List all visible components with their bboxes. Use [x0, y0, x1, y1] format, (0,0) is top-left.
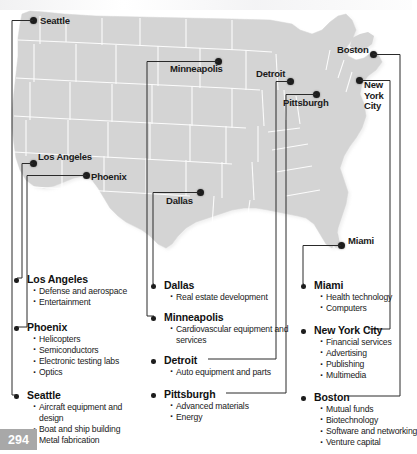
city-dot-dallas[interactable] — [197, 189, 204, 196]
city-label-seattle: Seattle — [40, 16, 70, 26]
cluster-title-dallas: Dallas — [164, 279, 194, 291]
city-label-detroit: Detroit — [256, 69, 285, 79]
cluster-items-dallas: Real estate development — [170, 292, 268, 303]
list-item: Mutual funds — [320, 404, 417, 415]
page-number-badge: 294 — [0, 429, 37, 450]
nyc-line-2: York — [364, 90, 384, 101]
bullet-icon — [151, 284, 156, 289]
cluster-items-phoenix: Helicopters Semiconductors Electronic te… — [33, 334, 119, 379]
list-item: Defense and aerospace — [33, 286, 127, 297]
bullet-icon — [14, 394, 19, 399]
list-item: Advertising — [320, 348, 392, 359]
nyc-line-3: City — [364, 100, 381, 111]
city-label-miami: Miami — [348, 236, 374, 246]
list-item: Real estate development — [170, 292, 268, 303]
bullet-icon — [301, 284, 306, 289]
list-item: Publishing — [320, 359, 392, 370]
list-item: Electronic testing labs — [33, 356, 119, 367]
list-item: Aircraft equipment and design — [33, 402, 143, 425]
bullet-icon — [151, 359, 156, 364]
list-item: Financial services — [320, 337, 392, 348]
bullet-icon — [151, 316, 156, 321]
cluster-title-detroit: Detroit — [164, 354, 197, 366]
cluster-items-miami: Health technology Computers — [320, 292, 392, 315]
bullet-icon — [14, 278, 19, 283]
list-item: Cardiovascular equipment and services — [170, 324, 294, 347]
city-label-newyorkcity: New York City — [364, 80, 390, 112]
city-label-losangeles: Los Angeles — [38, 152, 92, 162]
list-item: Entertainment — [33, 297, 127, 308]
list-item: Boat and ship building — [33, 424, 143, 435]
cluster-items-boston: Mutual funds Biotechnology Software and … — [320, 404, 417, 449]
industry-cluster-lists: Los Angeles Defense and aerospace Entert… — [0, 266, 412, 454]
cluster-items-seattle: Aircraft equipment and design Boat and s… — [33, 402, 143, 447]
us-map: Seattle Minneapolis Detroit Boston Pitts… — [0, 0, 412, 268]
city-dot-miami[interactable] — [338, 242, 345, 249]
list-item: Software and networking — [320, 426, 417, 437]
list-item: Semiconductors — [33, 345, 119, 356]
cluster-items-losangeles: Defense and aerospace Entertainment — [33, 286, 127, 309]
list-item: Multimedia — [320, 370, 392, 381]
city-label-dallas: Dallas — [166, 196, 193, 206]
list-item: Computers — [320, 303, 392, 314]
us-map-graphic — [0, 0, 412, 268]
list-item: Advanced materials — [170, 401, 249, 412]
bullet-icon — [301, 329, 306, 334]
cluster-items-pittsburgh: Advanced materials Energy — [170, 401, 249, 424]
cluster-title-miami: Miami — [314, 279, 343, 291]
city-dot-newyorkcity[interactable] — [356, 77, 363, 84]
list-item: Auto equipment and parts — [170, 367, 271, 378]
list-item: Biotechnology — [320, 415, 417, 426]
bullet-icon — [301, 396, 306, 401]
nyc-line-1: New — [364, 79, 383, 90]
city-label-pittsburgh: Pittsburgh — [283, 98, 329, 108]
cluster-items-minneapolis: Cardiovascular equipment and services — [170, 324, 294, 347]
list-item: Optics — [33, 367, 119, 378]
city-dot-seattle[interactable] — [30, 17, 37, 24]
scan-artifact — [0, 0, 412, 10]
list-item: Helicopters — [33, 334, 119, 345]
city-dot-detroit[interactable] — [287, 78, 294, 85]
page-number: 294 — [8, 433, 29, 447]
bullet-icon — [151, 393, 156, 398]
list-item: Metal fabrication — [33, 435, 143, 446]
city-label-boston: Boston — [337, 45, 369, 55]
city-dot-losangeles[interactable] — [30, 160, 37, 167]
city-label-phoenix: Phoenix — [91, 172, 127, 182]
cluster-items-detroit: Auto equipment and parts — [170, 367, 271, 378]
cluster-items-newyorkcity: Financial services Advertising Publishin… — [320, 337, 392, 382]
list-item: Venture capital — [320, 437, 417, 448]
list-item: Energy — [170, 412, 249, 423]
cluster-title-newyorkcity: New York City — [314, 324, 382, 336]
city-label-minneapolis: Minneapolis — [170, 64, 223, 74]
list-item: Health technology — [320, 292, 392, 303]
city-dot-boston[interactable] — [370, 51, 377, 58]
bullet-icon — [14, 326, 19, 331]
city-dot-phoenix[interactable] — [83, 172, 90, 179]
